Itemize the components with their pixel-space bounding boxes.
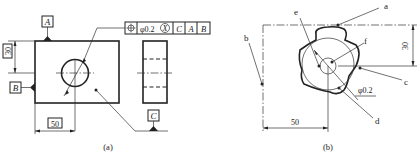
fcf-datum-2: A	[187, 24, 194, 34]
datum-a-label: A	[44, 17, 51, 27]
figure-a: A B 30 50 C	[3, 16, 210, 152]
datum-c-label: C	[150, 111, 157, 121]
caption-a: (a)	[103, 142, 113, 152]
label-c: c	[404, 77, 408, 87]
actual-hole-contour	[299, 27, 359, 94]
dim-50-label-b: 50	[291, 118, 299, 127]
fcf-datum-3: B	[201, 24, 206, 34]
label-a: a	[384, 1, 388, 11]
label-b: b	[244, 33, 249, 43]
dim-50-label: 50	[51, 120, 59, 129]
plate-side-view	[143, 41, 167, 103]
dim-30-label: 30	[4, 47, 13, 55]
datum-b-label: B	[13, 83, 19, 93]
feature-control-frame: φ0.2 X C A B	[125, 22, 210, 34]
engineering-drawing: A B 30 50 C	[0, 0, 417, 157]
fcf-datum-1: C	[176, 24, 182, 34]
figure-b: 30 50 a b c d e f	[244, 1, 417, 152]
label-e: e	[294, 7, 298, 17]
datum-a-triangle	[43, 36, 52, 41]
tolerance-value: φ0.2	[140, 25, 155, 34]
caption-b: (b)	[323, 142, 333, 152]
dim-30-label-b: 30	[401, 42, 410, 50]
label-f: f	[364, 36, 367, 46]
label-d: d	[375, 116, 380, 126]
datum-c-triangle	[149, 126, 158, 131]
tolerance-zone-label: φ0.2	[358, 86, 373, 95]
datum-b-triangle	[30, 83, 35, 92]
position-icon	[127, 24, 136, 33]
